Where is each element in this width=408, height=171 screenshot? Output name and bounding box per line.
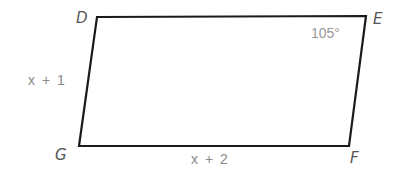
side-DG-length: x + 1 [28, 72, 65, 88]
parallelogram-diagram: D E F G 105° x + 1 x + 2 [0, 0, 408, 171]
vertex-label-G: G [55, 146, 67, 164]
angle-E-measure: 105° [311, 25, 340, 41]
vertex-label-F: F [350, 149, 359, 167]
vertex-label-D: D [76, 9, 88, 27]
vertex-label-E: E [373, 10, 383, 28]
side-GF-length: x + 2 [191, 151, 228, 167]
